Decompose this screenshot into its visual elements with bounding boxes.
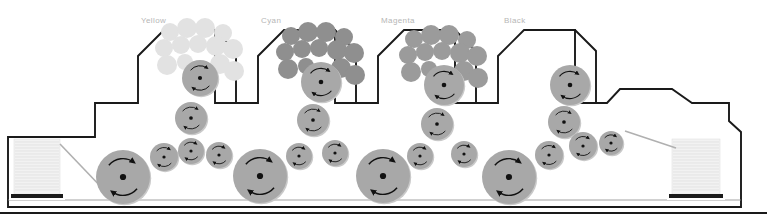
ink-roller-magenta-5 — [399, 46, 417, 64]
impression-cylinder-4-journal — [506, 174, 512, 180]
ink-roller-yellow-8 — [206, 36, 226, 56]
impression-cylinder-4 — [482, 150, 537, 205]
blanket-cylinder-y-journal — [189, 116, 193, 120]
transfer-drum-10 — [599, 131, 624, 156]
ink-roller-cyan-8 — [327, 40, 347, 60]
transfer-drum-6-journal — [418, 154, 421, 157]
ink-roller-yellow-2 — [177, 18, 197, 38]
ink-roller-yellow-10 — [157, 55, 177, 75]
ink-roller-yellow-5 — [155, 39, 173, 57]
sheet-delivery-path — [625, 131, 676, 148]
blanket-cylinder-m-journal — [435, 122, 439, 126]
unit-label-cyan: Cyan — [261, 16, 281, 25]
transfer-drum-4 — [286, 143, 313, 170]
ink-roller-magenta-7 — [433, 42, 451, 60]
ink-roller-magenta-10 — [401, 62, 421, 82]
transfer-drum-8-journal — [547, 153, 550, 156]
impression-cylinder-3-journal — [380, 173, 386, 179]
transfer-drum-5 — [322, 140, 349, 167]
ink-roller-magenta-8 — [450, 43, 470, 63]
impression-cylinder-1-journal — [120, 174, 126, 180]
transfer-drum-1 — [150, 143, 179, 172]
blanket-cylinder-y — [175, 102, 208, 135]
blanket-cylinder-k-journal — [562, 120, 566, 124]
transfer-drum-9-journal — [581, 144, 584, 147]
impression-cylinder-1 — [96, 150, 151, 205]
delivery-stack-base — [669, 194, 723, 198]
impression-cylinder-2 — [233, 149, 288, 204]
transfer-drum-2-journal — [189, 149, 192, 152]
transfer-drum-9 — [569, 132, 598, 161]
blanket-cylinder-c — [297, 104, 330, 137]
press-schematic-diagram: Yellow Cyan Magenta Black — [0, 0, 767, 223]
blanket-cylinder-c-journal — [311, 118, 315, 122]
plate-cylinder-k-journal — [568, 83, 573, 88]
transfer-drum-7 — [451, 141, 478, 168]
transfer-drum-6 — [407, 143, 434, 170]
plate-cylinder-y-journal — [198, 76, 202, 80]
ink-roller-yellow-13 — [224, 61, 244, 81]
transfer-drum-3 — [206, 142, 233, 169]
ink-roller-cyan-5 — [276, 43, 294, 61]
ink-roller-magenta-2 — [421, 25, 441, 45]
transfer-drum-7-journal — [462, 152, 465, 155]
transfer-drum-2 — [178, 138, 205, 165]
transfer-drum-8 — [535, 141, 564, 170]
transfer-drum-5-journal — [333, 151, 336, 154]
unit-label-magenta: Magenta — [381, 16, 415, 25]
ink-roller-cyan-10 — [278, 59, 298, 79]
transfer-drum-3-journal — [217, 153, 220, 156]
feeder-paper-stack — [9, 139, 65, 200]
ink-roller-cyan-2 — [298, 22, 318, 42]
press-schematic-canvas — [0, 0, 767, 223]
ink-roller-yellow-6 — [172, 36, 190, 54]
transfer-drum-4-journal — [297, 154, 300, 157]
transfer-drum-1-journal — [162, 155, 165, 158]
plate-cylinder-k — [550, 65, 591, 106]
plate-cylinder-m-journal — [442, 83, 447, 88]
ink-roller-magenta-13 — [468, 68, 488, 88]
plate-cylinder-c-journal — [319, 80, 324, 85]
impression-cylinder-2-journal — [257, 173, 263, 179]
blanket-cylinder-m — [421, 108, 454, 141]
ink-roller-cyan-6 — [293, 40, 311, 58]
ink-roller-cyan-13 — [345, 65, 365, 85]
unit-label-yellow: Yellow — [141, 16, 166, 25]
ink-roller-yellow-7 — [189, 35, 207, 53]
ink-roller-cyan-7 — [310, 39, 328, 57]
ink-roller-magenta-6 — [416, 43, 434, 61]
transfer-drum-10-journal — [609, 141, 612, 144]
unit-label-black: Black — [504, 16, 526, 25]
impression-cylinder-3 — [356, 149, 411, 204]
feeder-stack-base — [11, 194, 63, 198]
